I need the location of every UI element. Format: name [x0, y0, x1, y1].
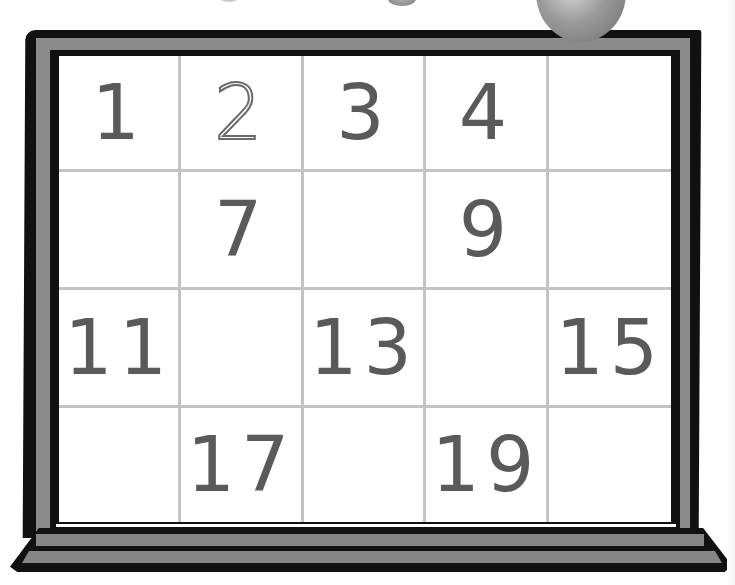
grid-cell-12-blank[interactable] [181, 290, 303, 408]
grid-cell-18-blank[interactable] [304, 408, 426, 522]
grid-cell-15[interactable]: 15 [549, 290, 671, 408]
board-bottom-rule [56, 524, 676, 527]
numeral: 9 [459, 192, 513, 268]
chalkboard-sill-band [22, 551, 722, 563]
numeral: 1 [92, 75, 146, 151]
grid-cell-16-blank[interactable] [59, 408, 181, 522]
grid-cell-11[interactable]: 11 [59, 290, 181, 408]
chalkboard-sill-band [36, 534, 704, 546]
grid-cell-4[interactable]: 4 [426, 56, 548, 172]
grid-cell-6-blank[interactable] [59, 172, 181, 290]
grid-cell-10-blank[interactable] [549, 172, 671, 290]
grid-cell-17[interactable]: 17 [181, 408, 303, 522]
numeral: 4 [459, 75, 513, 151]
grid-cell-1[interactable]: 1 [59, 56, 181, 172]
numeral: 7 [214, 192, 268, 268]
seed-icon [220, 0, 238, 2]
grid-cell-20-blank[interactable] [549, 408, 671, 522]
number-grid: 1 2 3 4 7 9 11 13 15 17 19 [59, 56, 671, 522]
grid-cell-19[interactable]: 19 [426, 408, 548, 522]
page-edge [727, 0, 735, 585]
numeral: 17 [187, 427, 296, 503]
grid-cell-5-blank[interactable] [549, 56, 671, 172]
grid-cell-8-blank[interactable] [304, 172, 426, 290]
numeral: 3 [336, 75, 390, 151]
grid-cell-7[interactable]: 7 [181, 172, 303, 290]
numeral: 13 [309, 310, 418, 386]
seed-icon [388, 0, 416, 6]
numeral: 11 [64, 310, 173, 386]
numeral-trace: 2 [214, 75, 268, 151]
grid-cell-13[interactable]: 13 [304, 290, 426, 408]
grid-cell-3[interactable]: 3 [304, 56, 426, 172]
numeral: 15 [555, 310, 664, 386]
grid-cell-2[interactable]: 2 [181, 56, 303, 172]
grid-cell-14-blank[interactable] [426, 290, 548, 408]
numeral: 19 [432, 427, 541, 503]
grid-cell-9[interactable]: 9 [426, 172, 548, 290]
